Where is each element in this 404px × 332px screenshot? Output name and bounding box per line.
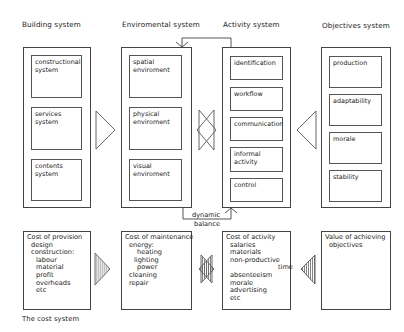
cost-triangle-right-hatch: [95, 253, 110, 285]
bidirectional-star-icon: [197, 110, 216, 150]
feedback-arrow-top: [176, 38, 231, 47]
cost-triangle-left-icon: [301, 255, 315, 284]
triangle-left-arrow-icon: [297, 111, 316, 149]
dynamic-balance-arrow: [183, 208, 237, 219]
triangle-right-arrow-icon: [96, 111, 115, 149]
connectors-layer: [0, 0, 404, 332]
cost-bidirectional-star-icon: [199, 255, 214, 283]
